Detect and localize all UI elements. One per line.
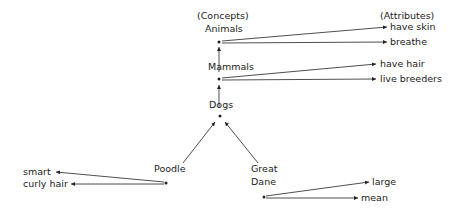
semantic-network-diagram: (Concepts) (Attributes) Animals have ski… bbox=[0, 0, 460, 210]
great-dane-attr-mean: mean bbox=[361, 192, 388, 203]
animals-attr-breathe: breathe bbox=[390, 36, 427, 47]
poodle-label: Poodle bbox=[154, 163, 186, 174]
great-dane-attr-large: large bbox=[372, 176, 396, 187]
poodle-attr-smart: smart bbox=[23, 166, 51, 177]
attributes-header: (Attributes) bbox=[380, 10, 434, 21]
dogs-node-dot bbox=[219, 115, 222, 118]
mammals-attr-have-hair: have hair bbox=[380, 58, 425, 69]
animals-node-dot bbox=[218, 41, 221, 44]
dogs-label: Dogs bbox=[209, 99, 233, 110]
great-dane-node-dot bbox=[263, 196, 266, 199]
animals-attr-have-skin: have skin bbox=[390, 21, 435, 32]
concepts-header: (Concepts) bbox=[197, 10, 249, 21]
mammals-node-dot bbox=[218, 78, 221, 81]
poodle-attr-curly-hair: curly hair bbox=[23, 178, 68, 189]
animals-label: Animals bbox=[205, 23, 243, 34]
poodle-node-dot bbox=[165, 182, 168, 185]
great-dane-label-line2: Dane bbox=[251, 176, 276, 187]
mammals-label: Mammals bbox=[208, 61, 254, 72]
great-dane-label-line1: Great bbox=[251, 163, 277, 174]
mammals-attr-live-breeders: live breeders bbox=[380, 73, 442, 84]
